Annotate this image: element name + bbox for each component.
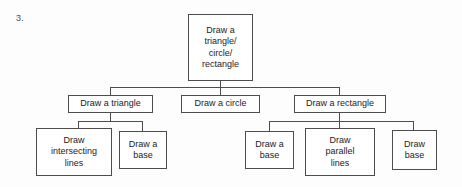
- node-draw-a-base-triangle[interactable]: Draw a base: [119, 131, 167, 169]
- node-draw-a-triangle[interactable]: Draw a triangle: [68, 95, 153, 113]
- node-draw-a-circle[interactable]: Draw a circle: [181, 95, 260, 113]
- question-number: 3.: [16, 13, 24, 23]
- node-root-draw-shape[interactable]: Draw a triangle/ circle/ rectangle: [188, 14, 253, 81]
- node-draw-intersecting-lines[interactable]: Draw intersecting lines: [36, 128, 112, 176]
- node-draw-a-rectangle[interactable]: Draw a rectangle: [294, 95, 386, 113]
- node-draw-a-base-rectangle[interactable]: Draw a base: [245, 131, 294, 169]
- node-draw-parallel-lines[interactable]: Draw parallel lines: [305, 128, 375, 176]
- diagram-canvas: 3. Draw a triangle/ circle/ rectangle Dr…: [0, 0, 462, 187]
- node-draw-base[interactable]: Draw base: [392, 130, 437, 170]
